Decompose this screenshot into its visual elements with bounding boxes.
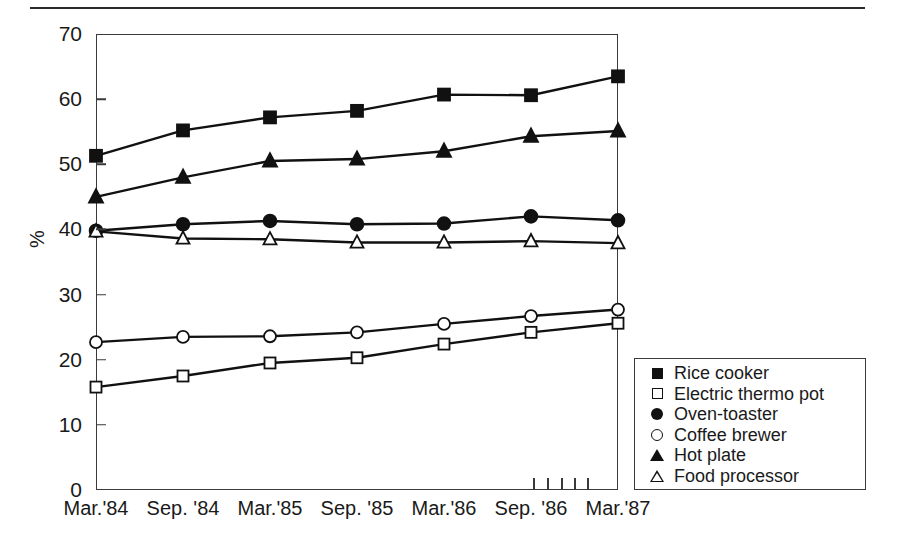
x-tick-label: Mar.'86 xyxy=(412,497,477,520)
legend-marker-shape xyxy=(650,449,664,461)
x-tick-label: Sep. '85 xyxy=(321,497,394,520)
y-axis-title: % xyxy=(26,230,49,248)
open-square-icon xyxy=(647,386,667,402)
x-tick-label: Sep. '86 xyxy=(495,497,568,520)
y-tick-label: 20 xyxy=(59,348,82,372)
y-tick-label: 60 xyxy=(59,87,82,111)
filled-circle-icon xyxy=(647,406,667,422)
top-divider-rule xyxy=(30,7,865,9)
y-tick-mark xyxy=(96,359,106,361)
legend-marker-shape xyxy=(652,368,663,379)
x-axis-minor-tick xyxy=(547,478,549,490)
chart-figure: 706050403020100 % Rice cookerElectric th… xyxy=(0,0,897,545)
y-tick-label: 40 xyxy=(59,217,82,241)
legend-marker-shape xyxy=(650,470,664,482)
x-axis-minor-tick xyxy=(574,478,576,490)
legend-item-label: Rice cooker xyxy=(674,364,769,382)
legend-item[interactable]: Food processor xyxy=(647,466,865,487)
plot-frame xyxy=(96,34,618,490)
legend-item-label: Food processor xyxy=(674,467,799,485)
y-tick-mark xyxy=(96,294,106,296)
y-tick-mark xyxy=(96,229,106,231)
open-triangle-icon xyxy=(647,468,667,484)
x-tick-label: Mar.'84 xyxy=(64,497,129,520)
y-tick-label: 70 xyxy=(59,22,82,46)
legend-marker-shape xyxy=(651,408,663,420)
open-circle-icon xyxy=(647,427,667,443)
legend-item[interactable]: Coffee brewer xyxy=(647,425,865,446)
legend-item[interactable]: Oven-toaster xyxy=(647,404,865,425)
y-tick-label: 50 xyxy=(59,152,82,176)
legend-item-label: Electric thermo pot xyxy=(674,385,824,403)
x-axis-minor-tick xyxy=(561,478,563,490)
legend-item[interactable]: Hot plate xyxy=(647,445,865,466)
filled-square-icon xyxy=(647,365,667,381)
y-tick-mark xyxy=(96,98,106,100)
legend-item-label: Coffee brewer xyxy=(674,426,787,444)
x-tick-label: Mar.'85 xyxy=(238,497,303,520)
filled-triangle-icon xyxy=(647,447,667,463)
x-axis-minor-tick xyxy=(587,478,589,490)
y-tick-label: 30 xyxy=(59,283,82,307)
y-tick-label: 10 xyxy=(59,413,82,437)
y-axis: 706050403020100 xyxy=(0,0,96,545)
legend-marker-shape xyxy=(651,429,663,441)
x-tick-label: Sep. '84 xyxy=(147,497,220,520)
x-tick-label: Mar.'87 xyxy=(586,497,651,520)
legend: Rice cookerElectric thermo potOven-toast… xyxy=(634,358,866,490)
legend-item[interactable]: Electric thermo pot xyxy=(647,384,865,405)
legend-item[interactable]: Rice cooker xyxy=(647,363,865,384)
y-tick-mark xyxy=(96,424,106,426)
x-axis-minor-tick xyxy=(533,478,535,490)
legend-marker-shape xyxy=(652,388,663,399)
legend-item-label: Oven-toaster xyxy=(674,405,778,423)
y-tick-mark xyxy=(96,164,106,166)
legend-item-label: Hot plate xyxy=(674,446,746,464)
